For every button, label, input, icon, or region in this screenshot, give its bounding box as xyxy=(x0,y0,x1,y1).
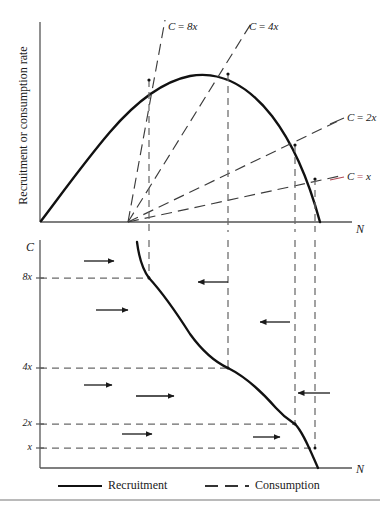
equilibrium-point-x xyxy=(314,447,317,450)
label-cx-eq: = xyxy=(357,170,363,182)
intersection-point-8x xyxy=(147,78,150,81)
label-c2x-c: C xyxy=(347,111,354,123)
equilibrium-point-2x xyxy=(294,423,297,426)
label-c4x: C = 4x xyxy=(249,20,278,32)
leader-c2x xyxy=(330,118,344,124)
bottom-panel xyxy=(36,240,352,468)
top-panel xyxy=(40,20,352,232)
equilibrium-point-8x xyxy=(148,277,151,280)
ytick-label-2x: 2x xyxy=(6,417,32,428)
legend-swatch-solid xyxy=(58,485,102,487)
label-c4x-rhs: 4x xyxy=(268,20,278,32)
intersection-point-4x xyxy=(226,72,229,75)
intersection-point-x xyxy=(313,177,316,180)
label-cx-c: C xyxy=(347,170,354,182)
label-cx: C = x xyxy=(347,170,371,182)
legend-label-consumption: Consumption xyxy=(255,478,320,493)
label-c8x-c: C xyxy=(168,20,175,32)
label-c8x-rhs: 8x xyxy=(187,20,197,32)
ytick-label-x: x xyxy=(6,441,32,452)
bottom-x-axis-name: N xyxy=(356,462,364,477)
label-c4x-eq: = xyxy=(259,20,265,32)
equilibrium-point-4x xyxy=(227,367,230,370)
legend: Recruitment Consumption xyxy=(0,478,380,500)
figure-container: Recruitment or consumption rate xyxy=(0,0,380,515)
label-c2x-rhs: 2x xyxy=(366,111,376,123)
ytick-label-8x: 8x xyxy=(6,271,32,282)
legend-item-recruitment: Recruitment xyxy=(58,478,167,493)
top-x-axis-name: N xyxy=(356,222,364,237)
label-c8x: C = 8x xyxy=(168,20,197,32)
recruitment-curve xyxy=(41,75,320,222)
intersection-point-2x xyxy=(293,143,296,146)
bottom-y-axis-name: C xyxy=(26,240,34,255)
legend-swatch-dashed xyxy=(205,485,249,487)
label-c4x-c: C xyxy=(249,20,256,32)
legend-label-recruitment: Recruitment xyxy=(108,478,167,493)
legend-item-consumption: Consumption xyxy=(205,478,320,493)
label-c2x: C = 2x xyxy=(347,111,376,123)
ytick-label-4x: 4x xyxy=(6,361,32,372)
figure-svg xyxy=(0,0,380,515)
label-c2x-eq: = xyxy=(357,111,363,123)
label-cx-rhs: x xyxy=(366,170,371,182)
label-c8x-eq: = xyxy=(178,20,184,32)
